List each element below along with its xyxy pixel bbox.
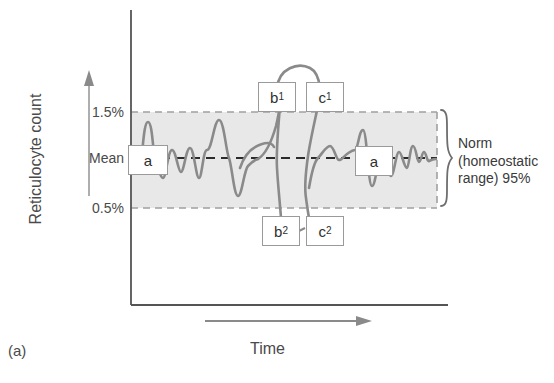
- label-a-left-text: a: [144, 152, 152, 169]
- label-box-b2[interactable]: b2: [262, 216, 300, 246]
- figure-caption: (a): [8, 342, 26, 359]
- y-tick-lower: 0.5%: [58, 200, 124, 216]
- y-tick-mean: Mean: [58, 150, 124, 166]
- legend-text: Norm (homeostatic range) 95%: [458, 135, 550, 188]
- y-axis-arrow: [84, 70, 94, 196]
- label-b2-text: b: [274, 223, 282, 240]
- label-c1-text: c: [318, 89, 326, 106]
- y-tick-upper: 1.5%: [58, 104, 124, 120]
- y-axis-title: Reticulocyte count: [27, 59, 45, 259]
- x-axis-title: Time: [250, 340, 285, 358]
- label-box-c1[interactable]: c1: [306, 82, 344, 112]
- label-box-a-left[interactable]: a: [128, 145, 168, 175]
- figure-container: 1.5% Mean 0.5% Reticulocyte count Time N…: [0, 0, 554, 383]
- label-a-right-text: a: [370, 153, 378, 170]
- x-axis-arrow: [205, 316, 372, 326]
- legend-line-1: Norm: [458, 135, 550, 153]
- legend-line-2: (homeostatic: [458, 153, 550, 171]
- label-box-b1[interactable]: b1: [258, 82, 296, 112]
- legend-line-3: range) 95%: [458, 170, 550, 188]
- label-box-c2[interactable]: c2: [306, 216, 344, 246]
- diagram-canvas: [0, 0, 554, 383]
- label-c2-text: c: [318, 223, 326, 240]
- label-b1-text: b: [270, 89, 278, 106]
- label-box-a-right[interactable]: a: [355, 146, 393, 176]
- legend-brace: [441, 110, 452, 206]
